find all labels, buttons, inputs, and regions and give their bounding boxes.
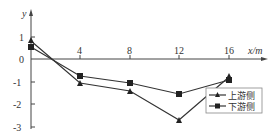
x-tick-label: 4 bbox=[77, 45, 82, 56]
y-axis-arrow-icon bbox=[29, 9, 33, 16]
x-tick-label: 16 bbox=[224, 45, 234, 56]
square-marker-icon bbox=[215, 104, 220, 109]
y-ticks bbox=[31, 37, 35, 127]
y-axis-label: y bbox=[21, 8, 27, 19]
x-ticks bbox=[80, 55, 229, 59]
x-axis-label: x/m bbox=[247, 45, 262, 56]
line-chart: 1 0 -1 -2 -3 4 8 12 16 y x/m bbox=[0, 0, 274, 139]
y-tick-label: 1 bbox=[19, 32, 24, 43]
y-tick-label: -2 bbox=[13, 99, 21, 110]
legend: 上游侧 下游侧 bbox=[206, 88, 262, 113]
y-tick-label: -3 bbox=[13, 122, 21, 133]
y-tick-label: -1 bbox=[13, 77, 21, 88]
origin-label: 0 bbox=[19, 54, 24, 65]
legend-label: 上游侧 bbox=[228, 90, 255, 101]
x-axis-arrow-icon bbox=[261, 57, 268, 61]
x-tick-label: 8 bbox=[127, 45, 132, 56]
legend-label: 下游侧 bbox=[228, 101, 255, 112]
x-tick-label: 12 bbox=[174, 45, 184, 56]
